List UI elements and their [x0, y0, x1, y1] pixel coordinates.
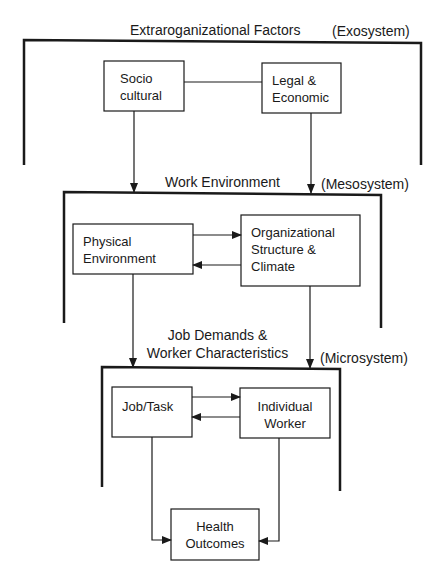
physical-line2: Environment [83, 250, 156, 267]
individual-worker-text: Individual Worker [240, 398, 330, 432]
health-outcomes-text: Health Outcomes [171, 518, 259, 552]
exosystem-label: (Exosystem) [332, 23, 410, 39]
exosystem-title: Extraroganizational Factors [130, 22, 300, 38]
socio-cultural-text: Socio cultural [120, 70, 162, 104]
health-line1: Health [171, 518, 259, 535]
health-line2: Outcomes [171, 535, 259, 552]
microsystem-title-line1: Job Demands & [140, 327, 295, 343]
physical-line1: Physical [83, 233, 156, 250]
legal-line2: Economic [272, 89, 329, 106]
socio-line2: cultural [120, 87, 162, 104]
microsystem-label: (Microsystem) [320, 350, 408, 366]
worker-to-health-arrow [259, 438, 279, 541]
exosystem-frame [24, 40, 421, 165]
org-line1: Organizational [251, 224, 335, 241]
physical-environment-text: Physical Environment [83, 233, 156, 267]
org-line2: Structure & [251, 241, 335, 258]
legal-economic-text: Legal & Economic [272, 72, 329, 106]
job-line1: Job/Task [122, 398, 173, 415]
mesosystem-title: Work Environment [165, 174, 280, 190]
microsystem-title-line2: Worker Characteristics [140, 345, 295, 361]
worker-line1: Individual [240, 398, 330, 415]
legal-line1: Legal & [272, 72, 329, 89]
worker-line2: Worker [240, 415, 330, 432]
job-to-health-arrow [152, 437, 171, 540]
diagram-canvas [0, 0, 438, 584]
org-line3: Climate [251, 258, 335, 275]
organizational-structure-text: Organizational Structure & Climate [251, 224, 335, 275]
mesosystem-label: (Mesosystem) [321, 176, 409, 192]
job-task-text: Job/Task [122, 398, 173, 415]
socio-line1: Socio [120, 70, 162, 87]
